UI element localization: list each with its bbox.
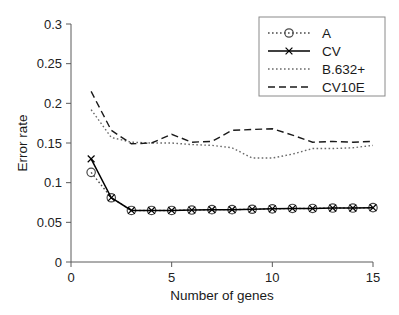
legend-label: B.632+ — [322, 62, 365, 77]
y-tick-label: 0.05 — [37, 215, 62, 230]
y-tick-label: 0.2 — [44, 96, 62, 111]
x-tick-label: 5 — [168, 270, 175, 285]
x-axis-title: Number of genes — [170, 288, 274, 303]
legend-label: A — [322, 26, 331, 41]
x-tick-label: 0 — [67, 270, 74, 285]
legend-label: CV — [322, 44, 341, 59]
y-tick-label: 0 — [55, 255, 62, 270]
chart-legend: ACVB.632+CV10E — [259, 17, 385, 96]
y-tick-label: 0.15 — [37, 136, 62, 151]
legend-label: CV10E — [322, 80, 365, 95]
x-tick-label: 15 — [366, 270, 380, 285]
y-tick-label: 0.3 — [44, 17, 62, 32]
y-tick-label: 0.25 — [37, 56, 62, 71]
y-tick-label: 0.1 — [44, 175, 62, 190]
y-axis-title: Error rate — [15, 114, 30, 171]
x-tick-label: 10 — [265, 270, 279, 285]
error-rate-line-chart: 00.050.10.150.20.250.3 051015 Error rate… — [0, 0, 399, 315]
figure-chart: 00.050.10.150.20.250.3 051015 Error rate… — [0, 0, 399, 315]
